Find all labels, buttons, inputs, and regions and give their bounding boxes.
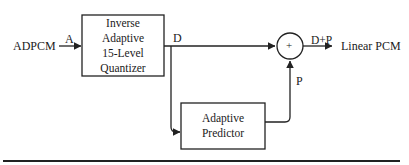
quantizer-line-4: Quantizer bbox=[82, 61, 164, 76]
line-d-branch bbox=[171, 46, 180, 132]
quantizer-label: Inverse Adaptive 15-Level Quantizer bbox=[82, 16, 164, 76]
signal-p-label: P bbox=[296, 74, 303, 88]
output-label: Linear PCM bbox=[341, 39, 401, 53]
predictor-line-1: Adaptive bbox=[181, 111, 265, 126]
signal-d-label: D bbox=[173, 31, 182, 45]
input-label: ADPCM bbox=[13, 39, 56, 53]
predictor-label: Adaptive Predictor bbox=[181, 111, 265, 141]
summer-symbol: + bbox=[286, 38, 292, 52]
quantizer-line-2: Adaptive bbox=[82, 31, 164, 46]
signal-a-label: A bbox=[65, 32, 74, 46]
quantizer-line-3: 15-Level bbox=[82, 46, 164, 61]
predictor-line-2: Predictor bbox=[181, 126, 265, 141]
signal-sum-label: D+P bbox=[311, 33, 332, 47]
line-p bbox=[265, 61, 290, 122]
quantizer-line-1: Inverse bbox=[82, 16, 164, 31]
